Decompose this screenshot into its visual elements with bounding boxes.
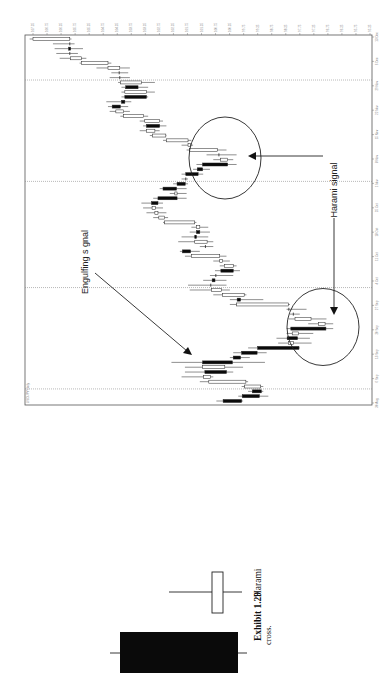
candle-body-bullish xyxy=(245,385,261,388)
candle-body-bearish xyxy=(69,47,71,50)
date-tick-label: 18 Oct xyxy=(375,228,379,237)
chart-frame xyxy=(25,35,372,405)
candle-body-bearish xyxy=(203,163,228,166)
candle-body-bearish xyxy=(221,269,233,272)
candle-body-bearish xyxy=(163,187,176,190)
candle-body-bearish xyxy=(195,235,197,238)
date-tick-label: 13 Dec xyxy=(375,32,379,42)
date-tick-label: 29 Nov xyxy=(375,81,379,91)
chart-header: USD/JPY Daily xyxy=(26,382,30,403)
candle xyxy=(230,303,290,306)
candle-body-bullish xyxy=(125,91,147,94)
candle-body-bearish xyxy=(196,231,199,234)
engulfing-signal-label: Engulfing s gnal xyxy=(80,230,90,294)
date-tick-label: 4 Oct xyxy=(375,277,379,284)
candlestick-chart: 107.25106.75106.25105.75105.25104.75104.… xyxy=(25,22,379,407)
candle-body-bullish xyxy=(318,322,325,325)
candle-body-bullish xyxy=(237,303,289,306)
candle-body-bullish xyxy=(124,115,144,118)
candle-body-bearish xyxy=(112,105,120,108)
date-tick-label: 13 Sep xyxy=(375,349,379,359)
price-tick-label: 103.25 xyxy=(143,22,147,32)
price-tick-label: 102.75 xyxy=(157,22,161,32)
candle-body-bullish xyxy=(152,134,165,137)
price-tick-label: 107.25 xyxy=(31,22,35,32)
candle xyxy=(30,38,72,41)
price-tick-label: 102.25 xyxy=(171,22,175,32)
date-tick-label: 8 Nov xyxy=(375,155,379,163)
price-tick-label: 106.75 xyxy=(45,22,49,32)
candle-body-bullish xyxy=(81,62,108,65)
candle-body-bullish xyxy=(190,149,218,152)
price-tick-label: 99.75 xyxy=(242,24,246,32)
candle-body-bearish xyxy=(125,95,147,98)
candle-body-bullish xyxy=(165,221,195,224)
small-white-candle xyxy=(212,572,223,613)
price-tick-label: 96.75 xyxy=(326,24,330,32)
candle xyxy=(163,139,191,142)
caption-title: Harami xyxy=(253,568,263,597)
candle-body-bearish xyxy=(126,86,138,89)
candle-body-bearish xyxy=(242,351,257,354)
candle-body-bullish xyxy=(33,38,70,41)
date-tick-label: 30 Aug xyxy=(375,398,379,408)
candle-body-bearish xyxy=(252,390,261,393)
candle-body-bullish xyxy=(292,332,298,335)
candle-body-bullish xyxy=(108,66,120,69)
candle-body-bearish xyxy=(242,395,259,398)
candle xyxy=(163,221,196,224)
candle-body-bullish xyxy=(195,240,207,243)
candle-body-bullish xyxy=(295,317,311,320)
candle-body-bearish xyxy=(233,356,240,359)
candle-body-bearish xyxy=(203,361,233,364)
candle-body-bearish xyxy=(158,197,177,200)
price-tick-label: 101.75 xyxy=(185,22,189,32)
price-tick-label: 100.25 xyxy=(228,22,232,32)
candle-body-bullish xyxy=(70,57,81,60)
candle-body-bullish xyxy=(221,158,228,161)
date-tick-label: 6 Dec xyxy=(375,57,379,65)
candle-body-bullish xyxy=(155,211,158,214)
date-tick-label: 6 Sep xyxy=(375,374,379,382)
candle-body-bearish xyxy=(152,202,158,205)
price-tick-label: 105.75 xyxy=(73,22,77,32)
candle xyxy=(242,385,264,388)
candle-body-bearish xyxy=(212,279,215,282)
price-tick-label: 96.25 xyxy=(340,24,344,32)
price-tick-label: 97.75 xyxy=(298,24,302,32)
price-tick-label: 95.25 xyxy=(368,24,372,32)
caption-continuation: cross. xyxy=(263,625,273,645)
date-tick-label: 25 Oct xyxy=(375,203,379,212)
candle-body-bearish xyxy=(121,100,124,103)
candle-body-bearish xyxy=(291,327,326,330)
price-tick-label: 101.25 xyxy=(200,22,204,32)
candle-body-bearish xyxy=(197,168,202,171)
candle-body-bearish xyxy=(182,250,190,253)
candle-body-bullish xyxy=(223,293,245,296)
candle-body-bullish xyxy=(145,120,160,123)
harami-signal-label: Harami signal xyxy=(329,162,339,217)
candle-body-bullish xyxy=(212,288,222,291)
price-tick-label: 106.25 xyxy=(59,22,63,32)
candle-body-bullish xyxy=(220,260,223,263)
price-tick-label: 104.75 xyxy=(101,22,105,32)
price-tick-label: 100.75 xyxy=(214,22,218,32)
candle-body-bullish xyxy=(159,216,165,219)
price-tick-label: 104.25 xyxy=(115,22,119,32)
price-tick-label: 99.25 xyxy=(256,24,260,32)
price-tick-label: 97.25 xyxy=(312,24,316,32)
date-tick-label: 22 Nov xyxy=(375,105,379,115)
candle-body-bearish xyxy=(237,298,240,301)
price-tick-label: 98.25 xyxy=(284,24,288,32)
candle-body-bullish xyxy=(152,206,155,209)
date-tick-label: 27 Sep xyxy=(375,300,379,310)
date-tick-label: 1 Nov xyxy=(375,179,379,187)
date-tick-label: 15 Nov xyxy=(375,129,379,139)
price-tick-label: 103.75 xyxy=(129,22,133,32)
candle-body-bullish xyxy=(166,139,188,142)
candle-body-bullish xyxy=(146,129,154,132)
candle-body-bullish xyxy=(116,110,124,113)
candle-body-bullish xyxy=(204,375,211,378)
price-tick-label: 95.75 xyxy=(354,24,358,32)
book-page: 107.25106.75106.25105.75105.25104.75104.… xyxy=(0,0,391,694)
